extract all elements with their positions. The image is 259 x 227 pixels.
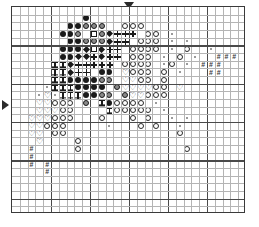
- stitch-open-circle[interactable]: [145, 76, 153, 84]
- stitch-heart[interactable]: ♡: [35, 99, 43, 107]
- stitch-open-circle[interactable]: [137, 22, 145, 30]
- stitch-filled-diamond[interactable]: [67, 61, 75, 69]
- stitch-tiny-dot[interactable]: [160, 61, 168, 69]
- stitch-heart[interactable]: ♡: [35, 114, 43, 122]
- stitch-half-filled-circle[interactable]: [74, 30, 82, 38]
- stitch-open-circle[interactable]: [184, 145, 192, 153]
- stitch-open-circle[interactable]: [67, 107, 75, 115]
- stitch-open-circle[interactable]: [67, 99, 75, 107]
- stitch-heart[interactable]: ♡: [28, 114, 36, 122]
- stitch-open-circle[interactable]: [67, 114, 75, 122]
- stitch-hash[interactable]: #: [28, 145, 36, 153]
- stitch-hash[interactable]: #: [223, 53, 231, 61]
- stitch-heart[interactable]: ♡: [43, 107, 51, 115]
- stitch-heart[interactable]: ♡: [121, 68, 129, 76]
- stitch-half-filled-circle[interactable]: [121, 91, 129, 99]
- stitch-i-beam[interactable]: [98, 99, 106, 107]
- stitch-open-circle[interactable]: [145, 30, 153, 38]
- stitch-tiny-dot[interactable]: [176, 68, 184, 76]
- stitch-open-circle[interactable]: [145, 68, 153, 76]
- stitch-filled-circle[interactable]: [67, 53, 75, 61]
- stitch-plus-sign[interactable]: [113, 38, 121, 46]
- stitch-open-circle[interactable]: [59, 107, 67, 115]
- stitch-filled-diamond[interactable]: [98, 53, 106, 61]
- stitch-tiny-dot[interactable]: [184, 61, 192, 69]
- stitch-open-circle[interactable]: [121, 22, 129, 30]
- stitch-filled-circle[interactable]: [74, 22, 82, 30]
- stitch-open-circle[interactable]: [160, 68, 168, 76]
- stitch-hash[interactable]: #: [230, 53, 238, 61]
- stitch-filled-diamond[interactable]: [67, 68, 75, 76]
- stitch-open-circle[interactable]: [145, 107, 153, 115]
- stitch-filled-circle[interactable]: [106, 68, 114, 76]
- stitch-open-circle[interactable]: [160, 91, 168, 99]
- stitch-i-beam[interactable]: [74, 91, 82, 99]
- stitch-filled-circle[interactable]: [82, 91, 90, 99]
- stitch-hash[interactable]: #: [215, 53, 223, 61]
- stitch-heart[interactable]: ♡: [43, 91, 51, 99]
- stitch-tiny-dot[interactable]: [160, 53, 168, 61]
- stitch-filled-circle[interactable]: [67, 38, 75, 46]
- stitch-open-circle[interactable]: [121, 99, 129, 107]
- stitch-tiny-dot[interactable]: [184, 38, 192, 46]
- stitch-filled-circle[interactable]: [74, 76, 82, 84]
- stitch-half-filled-circle[interactable]: [98, 22, 106, 30]
- stitch-open-circle[interactable]: [137, 61, 145, 69]
- stitch-filled-circle[interactable]: [74, 38, 82, 46]
- stitch-open-circle[interactable]: [137, 76, 145, 84]
- stitch-half-filled-circle[interactable]: [98, 38, 106, 46]
- stitch-open-circle[interactable]: [113, 99, 121, 107]
- stitch-filled-circle[interactable]: [59, 53, 67, 61]
- stitch-half-filled-circle[interactable]: [106, 91, 114, 99]
- stitch-tiny-dot[interactable]: [35, 91, 43, 99]
- stitch-heart[interactable]: ♡: [43, 99, 51, 107]
- stitch-filled-circle[interactable]: [106, 99, 114, 107]
- stitch-half-filled-circle[interactable]: [82, 38, 90, 46]
- stitch-open-circle[interactable]: [160, 76, 168, 84]
- stitch-open-circle[interactable]: [176, 53, 184, 61]
- stitch-i-beam[interactable]: [67, 91, 75, 99]
- stitch-plus-sign[interactable]: [98, 61, 106, 69]
- stitch-filled-diamond[interactable]: [82, 53, 90, 61]
- stitch-open-circle[interactable]: [137, 53, 145, 61]
- stitch-open-circle[interactable]: [176, 130, 184, 138]
- stitch-i-beam[interactable]: [59, 68, 67, 76]
- stitch-i-beam[interactable]: [106, 107, 114, 115]
- stitch-plus-sign[interactable]: [106, 53, 114, 61]
- stitch-i-beam[interactable]: [59, 76, 67, 84]
- stitch-open-circle[interactable]: [137, 99, 145, 107]
- stitch-half-filled-circle[interactable]: [106, 76, 114, 84]
- stitch-filled-diamond[interactable]: [74, 53, 82, 61]
- stitch-heart[interactable]: ♡: [35, 107, 43, 115]
- stitch-filled-circle[interactable]: [82, 76, 90, 84]
- stitch-open-circle[interactable]: [152, 91, 160, 99]
- stitch-plus-sign[interactable]: [82, 61, 90, 69]
- stitch-tiny-dot[interactable]: [184, 114, 192, 122]
- stitch-plus-sign[interactable]: [113, 30, 121, 38]
- stitch-half-filled-circle[interactable]: [98, 91, 106, 99]
- stitch-open-circle[interactable]: [137, 38, 145, 46]
- stitch-open-circle[interactable]: [137, 107, 145, 115]
- stitch-open-circle[interactable]: [145, 38, 153, 46]
- stitch-heart[interactable]: ♡: [35, 137, 43, 145]
- stitch-open-circle[interactable]: [152, 30, 160, 38]
- cross-stitch-grid[interactable]: ######♡##♡♡♡♡♡♡♡♡♡♡♡♡♡♡♡♡♡♡♡♡♡♡♡#####: [11, 6, 245, 213]
- stitch-open-circle[interactable]: [59, 99, 67, 107]
- stitch-half-filled-circle[interactable]: [82, 99, 90, 107]
- stitch-open-circle[interactable]: [137, 68, 145, 76]
- stitch-heart[interactable]: ♡: [137, 91, 145, 99]
- stitch-i-beam[interactable]: [59, 91, 67, 99]
- stitch-hash[interactable]: #: [215, 61, 223, 69]
- stitch-plus-sign[interactable]: [106, 61, 114, 69]
- stitch-heart[interactable]: ♡: [43, 114, 51, 122]
- stitch-open-circle[interactable]: [145, 91, 153, 99]
- stitch-open-circle[interactable]: [145, 61, 153, 69]
- stitch-tiny-dot[interactable]: [191, 53, 199, 61]
- stitch-open-circle[interactable]: [152, 38, 160, 46]
- stitch-heart[interactable]: ♡: [121, 76, 129, 84]
- stitch-open-circle[interactable]: [145, 53, 153, 61]
- stitch-hash[interactable]: #: [28, 153, 36, 161]
- stitch-plus-sign[interactable]: [74, 61, 82, 69]
- stitch-filled-circle[interactable]: [82, 15, 90, 23]
- stitch-half-filled-circle[interactable]: [98, 76, 106, 84]
